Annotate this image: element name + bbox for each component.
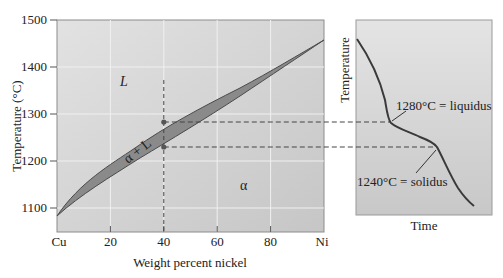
x-tick-20: 20 [104, 234, 117, 249]
x-tick-80: 80 [264, 234, 277, 249]
y-tick-1100: 1100 [21, 200, 47, 215]
solidus-annotation: 1240°C = solidus [357, 174, 448, 189]
solidus-point [161, 144, 166, 149]
y-tick-1500: 1500 [21, 12, 47, 27]
y-tick-1200: 1200 [21, 153, 47, 168]
y-tick-1300: 1300 [21, 106, 47, 121]
x-tick-40: 40 [157, 234, 170, 249]
cooling-y-axis-title: Temperature [337, 37, 352, 103]
cooling-x-axis-title: Time [411, 218, 438, 233]
y-axis-title: Temperature (°C) [9, 80, 24, 171]
y-tick-1400: 1400 [21, 59, 47, 74]
region-label-liquid: L [119, 74, 128, 89]
liquidus-annotation: 1280°C = liquidus [396, 98, 492, 113]
x-axis-title: Weight percent nickel [133, 255, 247, 270]
cooling-curve-chart: 1280°C = liquidus 1240°C = solidus Time … [337, 20, 492, 233]
x-tick-cu: Cu [51, 234, 67, 249]
region-label-alpha: α [240, 178, 248, 193]
x-tick-60: 60 [211, 234, 224, 249]
figure: L α + L α 1500 1400 1300 1200 1100 Cu 20… [0, 0, 503, 278]
liquidus-point [161, 119, 166, 124]
x-tick-ni: Ni [316, 234, 329, 249]
